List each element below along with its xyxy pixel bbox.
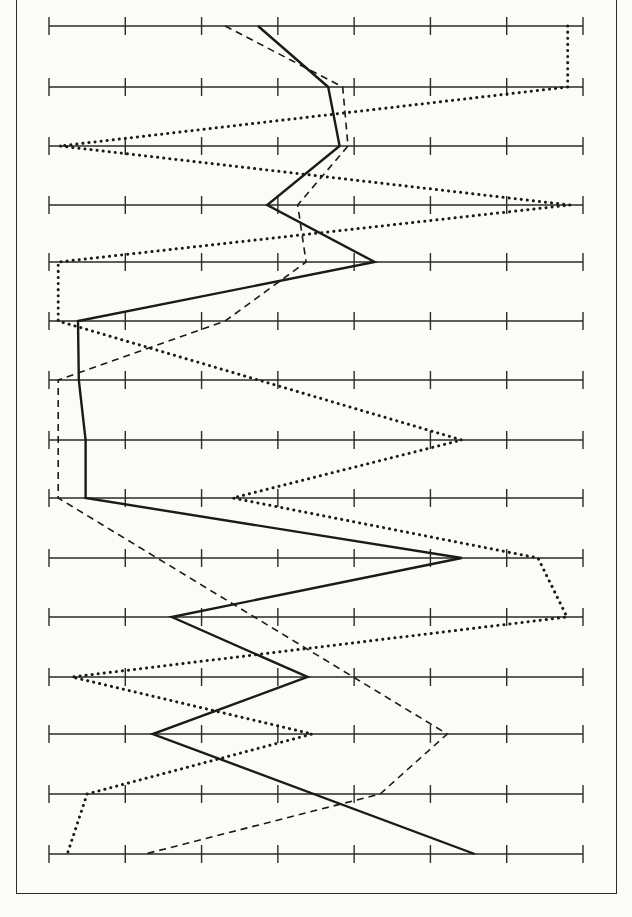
- axis-row-15: [49, 845, 583, 863]
- axis-row-5: [49, 253, 583, 271]
- axis-row-6: [49, 312, 583, 330]
- profile-chart: [0, 0, 632, 917]
- axes-group: [49, 17, 583, 863]
- axis-row-11: [49, 608, 583, 626]
- axis-row-8: [49, 431, 583, 449]
- axis-row-13: [49, 725, 583, 743]
- axis-row-3: [49, 137, 583, 155]
- axis-row-7: [49, 371, 583, 389]
- axis-row-1: [49, 17, 583, 35]
- axis-row-2: [49, 78, 583, 96]
